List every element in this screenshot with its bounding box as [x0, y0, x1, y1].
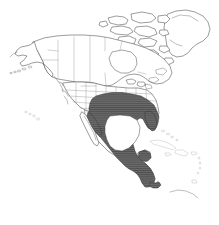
species-range-map-figure [0, 0, 219, 225]
island-trinidad [192, 180, 197, 183]
range-polygon-panama [149, 182, 161, 188]
map-canvas [0, 0, 219, 225]
